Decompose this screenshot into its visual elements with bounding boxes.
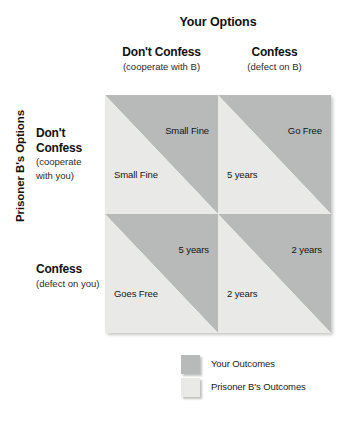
row-axis-title: Prisoner B's Options (14, 101, 26, 231)
prisoner-b-outcome-label: Small Fine (114, 169, 158, 180)
your-outcome-label: 5 years (179, 244, 209, 255)
payoff-matrix: Small Fine Small Fine Go Free 5 years 5 … (105, 95, 331, 333)
prisoner-b-outcome-label: 5 years (227, 169, 257, 180)
cell-split-diagonal (105, 214, 218, 333)
legend-label: Prisoner B's Outcomes (211, 381, 306, 392)
row-header-sublabel-line2: with you) (36, 170, 100, 183)
prisoner-b-outcome-label: 2 years (227, 288, 257, 299)
cell-split-diagonal (218, 95, 331, 214)
your-outcome-label: Small Fine (165, 125, 209, 136)
matrix-cell: Small Fine Small Fine (105, 95, 218, 214)
column-header-label: Confess (218, 45, 331, 59)
column-header-sublabel: (cooperate with B) (105, 60, 218, 73)
your-outcome-label: 2 years (292, 244, 322, 255)
matrix-cell: 5 years Goes Free (105, 214, 218, 333)
column-header-label: Don't Confess (105, 45, 218, 59)
legend-swatch-icon (181, 355, 200, 374)
cell-split-diagonal (105, 95, 218, 214)
row-header-label-line1: Confess (36, 262, 100, 277)
row-header-dont-confess: Don't Confess (cooperate with you) (36, 126, 100, 182)
row-header-sublabel-line1: (defect on you) (36, 278, 100, 291)
prisoner-b-outcome-label: Goes Free (114, 288, 158, 299)
column-header-sublabel: (defect on B) (218, 60, 331, 73)
row-header-sublabel-line1: (cooperate (36, 156, 100, 169)
row-header-confess: Confess (defect on you) (36, 262, 100, 290)
matrix-cell: Go Free 5 years (218, 95, 331, 214)
column-header-confess: Confess (defect on B) (218, 45, 331, 73)
column-header-dont-confess: Don't Confess (cooperate with B) (105, 45, 218, 73)
cell-split-diagonal (218, 214, 331, 333)
column-axis-title: Your Options (105, 15, 331, 29)
legend-label: Your Outcomes (211, 358, 275, 369)
matrix-cell: 2 years 2 years (218, 214, 331, 333)
row-header-label-line2: Confess (36, 141, 100, 156)
your-outcome-label: Go Free (288, 125, 322, 136)
row-header-label-line1: Don't (36, 126, 100, 141)
legend-swatch-icon (181, 378, 200, 397)
